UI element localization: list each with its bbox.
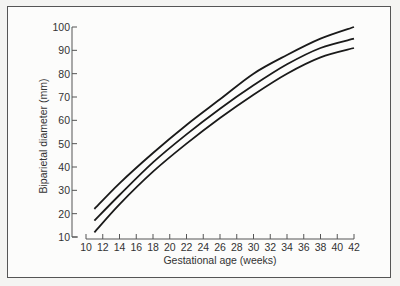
y-tick-label: 60 — [58, 114, 70, 126]
growth-chart: 102030405060708090100 101214161820222426… — [0, 0, 400, 286]
y-tick-label: 50 — [58, 138, 70, 150]
x-tick-label: 22 — [181, 241, 193, 253]
series-lines — [94, 27, 354, 232]
x-tick-label: 10 — [80, 241, 92, 253]
series-line-middle — [94, 39, 354, 221]
x-axis-label: Gestational age (weeks) — [163, 254, 276, 266]
y-tick-label: 70 — [58, 91, 70, 103]
x-tick-label: 30 — [248, 241, 260, 253]
x-tick-label: 18 — [147, 241, 159, 253]
x-tick-label: 16 — [130, 241, 142, 253]
x-tick-label: 34 — [281, 241, 293, 253]
x-tick-label: 26 — [214, 241, 226, 253]
x-tick-label: 20 — [164, 241, 176, 253]
x-tick-label: 32 — [264, 241, 276, 253]
y-axis-label: Biparietal diameter (mm) — [37, 79, 49, 194]
x-tick-label: 36 — [298, 241, 310, 253]
y-tick-label: 80 — [58, 68, 70, 80]
x-tick-label: 42 — [348, 241, 360, 253]
x-tick-label: 12 — [97, 241, 109, 253]
y-axis: 102030405060708090100 — [52, 21, 78, 243]
x-axis: 1012141618202224262830323436384042 — [80, 234, 360, 253]
x-tick-label: 14 — [114, 241, 126, 253]
y-tick-label: 10 — [58, 231, 70, 243]
x-tick-label: 28 — [231, 241, 243, 253]
y-tick-label: 30 — [58, 184, 70, 196]
y-tick-label: 100 — [52, 21, 70, 33]
series-line-lower — [94, 48, 354, 232]
y-tick-label: 40 — [58, 161, 70, 173]
x-tick-label: 40 — [331, 241, 343, 253]
y-tick-label: 90 — [58, 44, 70, 56]
x-tick-label: 24 — [197, 241, 209, 253]
y-tick-label: 20 — [58, 208, 70, 220]
x-tick-label: 38 — [315, 241, 327, 253]
